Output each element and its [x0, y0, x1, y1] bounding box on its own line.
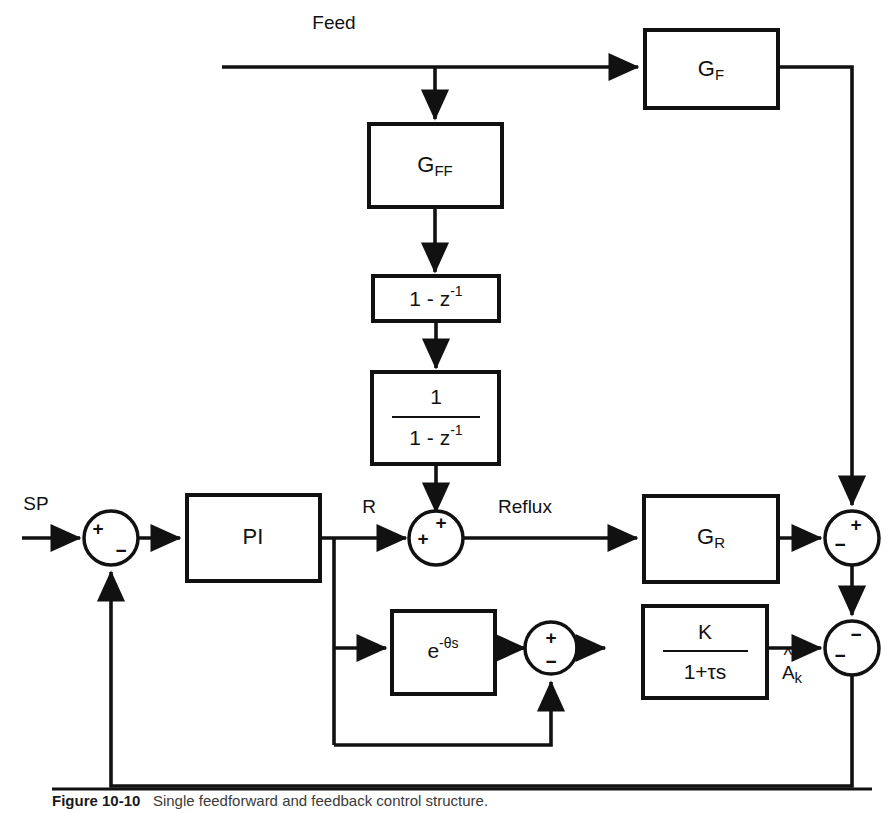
model-error-summing-junction: + −	[525, 622, 577, 674]
output-upper-minus-sign: −	[834, 534, 845, 555]
block-deadtime: e-θs	[392, 611, 495, 694]
r-label: R	[362, 496, 376, 517]
gf-output-rail	[778, 67, 852, 505]
output-lower-top-sign: −	[850, 624, 861, 645]
figure-canvas: Feed GF GFF 1	[0, 0, 895, 813]
figure-caption-number: Figure 10-10	[52, 792, 140, 809]
output-lower-left-sign: −	[834, 645, 845, 666]
block-differencer: 1 - z-1	[373, 276, 499, 321]
block-pi: PI	[187, 495, 320, 581]
block-integrator: 1 1 - z-1	[372, 372, 499, 464]
block-firstorder-denominator: 1+τs	[684, 660, 727, 683]
block-gff: GFF	[369, 124, 502, 207]
block-pi-label: PI	[243, 524, 264, 549]
a-hat-k-circumflex: ^	[784, 644, 793, 665]
reflux-summing-junction: + +	[409, 511, 463, 565]
block-gr: GR	[644, 496, 778, 582]
reflux-junction-left-sign: +	[417, 528, 428, 549]
block-firstorder-numerator: K	[698, 620, 712, 643]
block-diagram: Feed GF GFF 1	[0, 0, 895, 813]
output-upper-summing-junction: + −	[825, 511, 879, 565]
sp-junction-minus-sign: −	[115, 540, 126, 561]
output-upper-plus-sign: +	[850, 514, 861, 535]
block-firstorder: K 1+τs	[643, 606, 767, 698]
output-lower-summing-junction: − −	[825, 621, 879, 675]
block-gf: GF	[645, 30, 778, 108]
reflux-junction-top-sign: +	[435, 512, 446, 533]
model-error-plus-sign: +	[545, 627, 556, 648]
a-hat-k-label: Ak	[782, 662, 803, 686]
sp-label: SP	[23, 493, 48, 514]
model-error-minus-sign: −	[545, 651, 556, 672]
reflux-label: Reflux	[498, 496, 552, 517]
figure-caption-text: Single feedforward and feedback control …	[153, 792, 488, 809]
block-integrator-numerator: 1	[430, 385, 442, 408]
feed-label: Feed	[312, 12, 355, 33]
sp-junction-plus-sign: +	[92, 518, 103, 539]
sp-summing-junction: + −	[84, 511, 138, 565]
figure-caption: Figure 10-10 Single feedforward and feed…	[52, 792, 872, 809]
